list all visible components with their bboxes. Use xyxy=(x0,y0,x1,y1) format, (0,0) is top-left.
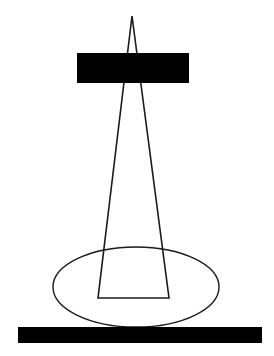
diagram-canvas xyxy=(0,0,274,356)
base-ellipse xyxy=(53,247,219,327)
top-bar xyxy=(77,53,189,83)
ground-bar xyxy=(18,327,262,343)
